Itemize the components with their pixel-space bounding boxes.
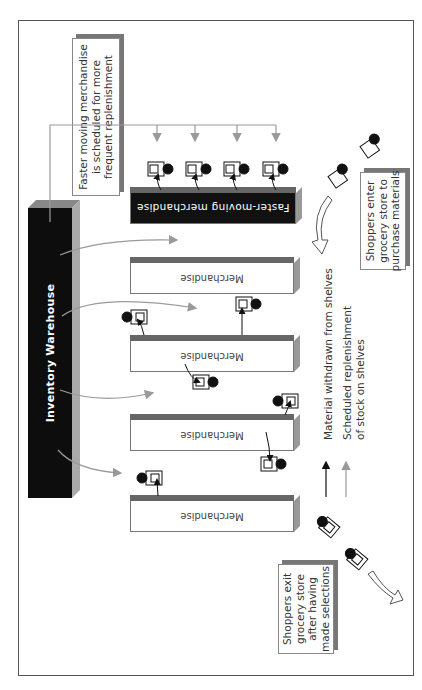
shelf-side-face [294,335,300,372]
shoppers-enter-callout: Shoppers enter grocery store to purchase… [360,172,406,270]
replenishment-callout: Faster moving merchandise is scheduled f… [72,38,120,196]
shelf-top-face [130,414,294,420]
shelf-faster-moving-label: Faster-moving merchandise [137,202,290,214]
warehouse-side-face [72,200,80,498]
replenishment-callout-text: Faster moving merchandise is scheduled f… [77,44,115,189]
shelf-merchandise-2: Merchandise [130,340,294,372]
shoppers-enter-text: Shoppers enter grocery store to purchase… [364,171,402,272]
shelf-merchandise-3: Merchandise [130,419,294,451]
shelf-side-face [294,495,300,532]
shoppers-exit-text: Shoppers exit grocery store after having… [281,566,331,652]
shelf-top-face [130,335,294,341]
shelf-label: Merchandise [180,351,243,362]
warehouse-top-face [28,200,80,208]
shoppers-exit-callout: Shoppers exit grocery store after having… [278,564,334,654]
legend-withdrawn-text: Material withdrawn from shelves [322,268,335,440]
shelf-side-face [296,187,302,224]
shelf-side-face [294,414,300,451]
legend-replenish-text: Scheduled replenishment of stock on shel… [341,306,366,440]
shelf-side-face [294,257,300,294]
warehouse-label: Inventory Warehouse [44,284,57,423]
shelf-merchandise-1: Merchandise [130,262,294,294]
shelf-top-face [130,187,296,193]
shelf-faster-moving: Faster-moving merchandise [130,192,296,224]
shelf-top-face [130,257,294,263]
shelf-label: Merchandise [180,511,243,522]
shelf-merchandise-4: Merchandise [130,500,294,532]
shelf-top-face [130,495,294,501]
inventory-warehouse: Inventory Warehouse [28,208,72,498]
shelf-label: Merchandise [180,273,243,284]
shelf-label: Merchandise [180,430,243,441]
